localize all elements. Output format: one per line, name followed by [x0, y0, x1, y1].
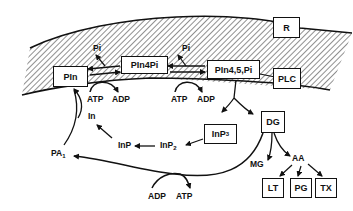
node-plc: PLC — [273, 68, 301, 89]
diagram-canvas: PIn PIn4Pi PIn4,5,Pi R PLC DG InP3 LT PG… — [0, 0, 353, 211]
inp2-sub: 2 — [173, 145, 176, 151]
label-pa1: PA1 — [51, 149, 66, 159]
label-pi-1: Pi — [93, 44, 101, 53]
label-pi-2: Pi — [182, 44, 190, 53]
node-pin: PIn — [53, 66, 88, 87]
inp2-base: InP — [160, 140, 173, 150]
inp3-sub: 3 — [226, 131, 229, 137]
label-mg: MG — [250, 160, 264, 169]
label-atp-1: ATP — [87, 95, 103, 104]
pa1-sub: 1 — [62, 153, 65, 159]
inp3-base: InP — [212, 129, 226, 139]
node-pin4pi: PIn4Pi — [121, 56, 168, 74]
label-adp-2: ADP — [197, 95, 215, 104]
node-lt: LT — [262, 178, 284, 198]
label-inp2: InP2 — [160, 141, 177, 151]
label-atp-2: ATP — [171, 95, 187, 104]
label-aa: AA — [292, 154, 304, 163]
label-atp-3: ATP — [176, 192, 192, 201]
node-dg: DG — [261, 111, 285, 133]
node-tx: TX — [315, 178, 337, 198]
pa1-base: PA — [51, 148, 62, 158]
node-receptor: R — [273, 17, 300, 38]
node-pg: PG — [290, 178, 312, 198]
label-inp: InP — [118, 141, 131, 150]
label-adp-3: ADP — [148, 192, 166, 201]
label-in: In — [88, 112, 96, 121]
node-pin45pi: PIn4,5,Pi — [207, 60, 260, 79]
label-adp-1: ADP — [112, 95, 130, 104]
node-inp3: InP3 — [204, 124, 237, 144]
